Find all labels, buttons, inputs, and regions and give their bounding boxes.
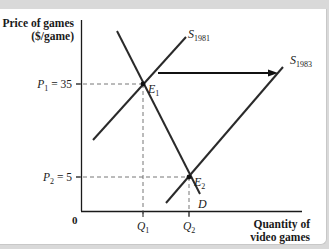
e2-label: E2 xyxy=(193,175,205,191)
q2-label: Q2 xyxy=(183,220,195,235)
s1981-label: S1981 xyxy=(188,27,210,43)
supply-demand-chart: Price of games ($/game) P1 = 35 P2 = 5 0… xyxy=(0,0,329,249)
demand-curve xyxy=(117,31,200,194)
supply-1983-curve xyxy=(166,67,283,203)
p2-label: P2 = 5 xyxy=(42,171,72,186)
equilibrium-e1-dot xyxy=(141,82,146,87)
p1-label: P1 = 35 xyxy=(36,78,72,93)
origin-label: 0 xyxy=(72,214,78,226)
supply-1981-curve xyxy=(93,37,186,140)
e1-label: E1 xyxy=(147,82,159,98)
y-axis-label-line2: ($/game) xyxy=(31,30,74,43)
demand-label: D xyxy=(197,197,207,211)
q1-label: Q1 xyxy=(137,220,149,235)
x-axis-label-line2: video games xyxy=(250,231,310,244)
s1983-label: S1983 xyxy=(290,53,312,69)
equilibrium-e2-dot xyxy=(187,175,192,180)
x-axis-label-line1: Quantity of xyxy=(253,218,310,231)
y-axis-label-line1: Price of games xyxy=(2,17,74,30)
